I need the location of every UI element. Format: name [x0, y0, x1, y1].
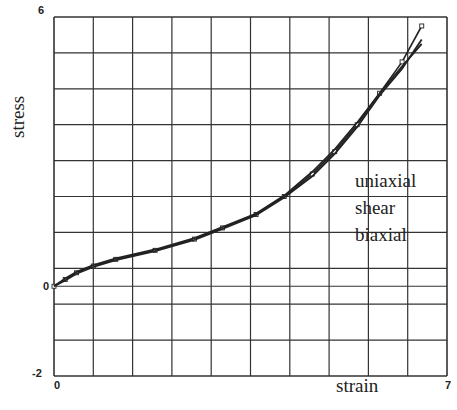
series-biaxial — [54, 39, 422, 286]
y-tick-min: -2 — [32, 367, 42, 379]
y-axis-label: stress — [7, 96, 28, 138]
x-axis-label: strain — [336, 375, 379, 396]
legend-shear: shear — [355, 197, 396, 218]
series-uniaxial — [54, 26, 422, 286]
legend-biaxial: biaxial — [355, 224, 407, 245]
x-tick-max: 7 — [445, 379, 451, 391]
marker-square — [420, 24, 424, 28]
legend-uniaxial: uniaxial — [355, 170, 416, 191]
series-shear — [54, 44, 422, 286]
x-tick-min: 0 — [54, 379, 60, 391]
y-tick-max: 6 — [38, 4, 44, 16]
stress-strain-chart: 6 0 -2 0 7 strain stress uniaxial shear … — [0, 0, 457, 410]
marker-square — [400, 60, 404, 64]
y-tick-zero: 0 — [43, 280, 49, 292]
